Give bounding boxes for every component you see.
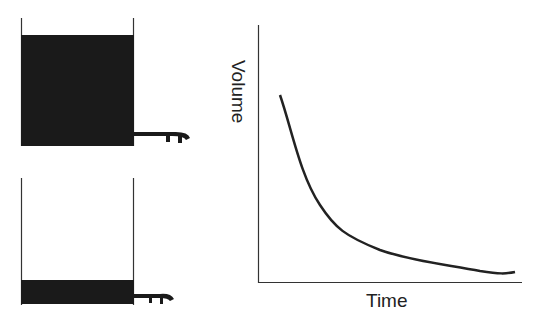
liquid-fill xyxy=(21,35,134,146)
volume-time-chart: Volume Time xyxy=(228,25,522,311)
volume-curve xyxy=(280,95,515,273)
x-axis-label: Time xyxy=(366,290,408,311)
low-tank xyxy=(21,178,174,305)
tap-icon xyxy=(133,132,190,143)
y-axis-label: Volume xyxy=(228,60,249,123)
liquid-fill xyxy=(21,280,134,304)
diagram: Volume Time xyxy=(0,0,554,325)
full-tank xyxy=(21,18,190,146)
tap-icon xyxy=(133,294,174,304)
